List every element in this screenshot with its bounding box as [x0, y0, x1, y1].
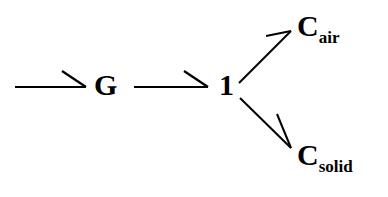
node-c-air-subscript: air — [319, 28, 340, 47]
node-c-solid-subscript: solid — [319, 157, 353, 176]
edge-one-to-c-air-shaft — [239, 31, 291, 83]
node-label-c-solid: Csolid — [297, 140, 353, 170]
node-c-solid-base: C — [297, 138, 319, 171]
edge-input-to-g-arrowhead — [62, 71, 86, 87]
edge-one-to-c-solid-shaft — [240, 98, 291, 148]
edge-one-to-c-solid-arrowhead — [277, 114, 291, 148]
node-label-c-air: Cair — [297, 11, 339, 41]
edge-input-to-g — [15, 71, 86, 87]
edge-g-to-one — [134, 71, 208, 87]
node-label-g: G — [94, 70, 117, 100]
node-label-one-junction: 1 — [219, 70, 234, 100]
edge-g-to-one-arrowhead — [184, 71, 208, 87]
node-c-air-base: C — [297, 9, 319, 42]
node-g-base: G — [94, 68, 117, 101]
bond-graph-diagram: G 1 Cair Csolid — [0, 0, 388, 197]
edge-one-to-c-air — [239, 31, 291, 83]
edge-one-to-c-solid — [240, 98, 291, 148]
node-one-base: 1 — [219, 68, 234, 101]
